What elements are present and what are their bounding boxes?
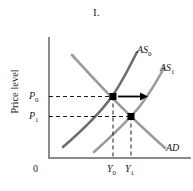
x-tick-label-y0: Y0	[107, 163, 116, 177]
as0-curve-label: AS0	[137, 44, 152, 58]
ad-curve	[72, 55, 165, 148]
ad-curve-label: AD	[166, 142, 179, 153]
origin-label: 0	[33, 163, 38, 174]
ad-as-figure: I. Price level AS0 AS1 AD P0 P1 Y0 Y1	[0, 0, 193, 191]
y-tick-label-p0: P0	[29, 90, 39, 104]
equilibrium-marker-e1	[128, 113, 135, 120]
equilibrium-marker-e0	[110, 93, 117, 100]
y-tick-label-p1: P1	[29, 110, 39, 124]
as0-curve	[63, 52, 137, 147]
x-tick-label-y1: Y1	[125, 163, 134, 177]
as1-curve-label: AS1	[160, 62, 175, 76]
